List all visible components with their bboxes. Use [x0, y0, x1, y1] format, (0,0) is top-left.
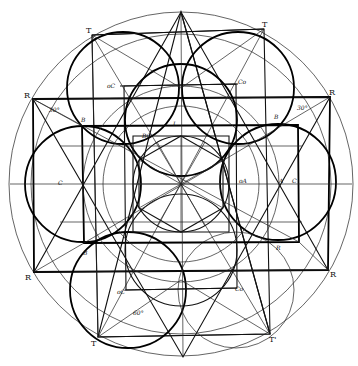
line	[92, 35, 98, 337]
label-c-right: C	[292, 177, 297, 184]
line	[181, 12, 270, 334]
construction-drawing: T T T T' R R R R B B B R oC Co oC Co BC …	[0, 0, 358, 366]
label-t-bottom-right: T'	[269, 335, 277, 344]
label-t-top-left: T	[86, 26, 92, 35]
label-r-top-right: R	[329, 88, 336, 97]
label-l: L	[172, 120, 177, 127]
label-b-bottom-left: B	[82, 249, 88, 256]
label-co-top: Co	[238, 78, 247, 85]
label-co-bottom: Co	[235, 285, 244, 292]
label-b-top-left: B	[80, 116, 86, 123]
label-oc-top: oC	[107, 82, 116, 89]
label-30-right: 30°	[297, 104, 308, 111]
label-r-bottom-right: R	[330, 270, 337, 279]
label-60-bottom: 60°	[133, 309, 144, 316]
label-c-left: C	[58, 179, 63, 186]
label-r-bottom-left: R	[25, 273, 32, 282]
diag	[34, 243, 84, 272]
label-b-bottom-right: R	[275, 244, 281, 251]
label-r-top-left: R	[24, 91, 31, 100]
label-30-left: 30°	[49, 106, 60, 113]
geometric-diagram: T T T T' R R R R B B B R oC Co oC Co BC …	[0, 0, 358, 366]
diag	[33, 99, 299, 242]
label-t-bottom-left: T	[91, 339, 97, 348]
label-t-top-right: T	[262, 20, 268, 29]
label-oc-bottom: oC	[117, 288, 126, 295]
label-a: A	[278, 177, 284, 184]
label-b-top-right: B	[273, 113, 279, 120]
diag	[92, 35, 181, 88]
diag	[299, 242, 328, 270]
label-bc: BC	[141, 132, 152, 139]
label-oa: oA	[239, 177, 248, 184]
circle-top-right	[182, 32, 294, 144]
